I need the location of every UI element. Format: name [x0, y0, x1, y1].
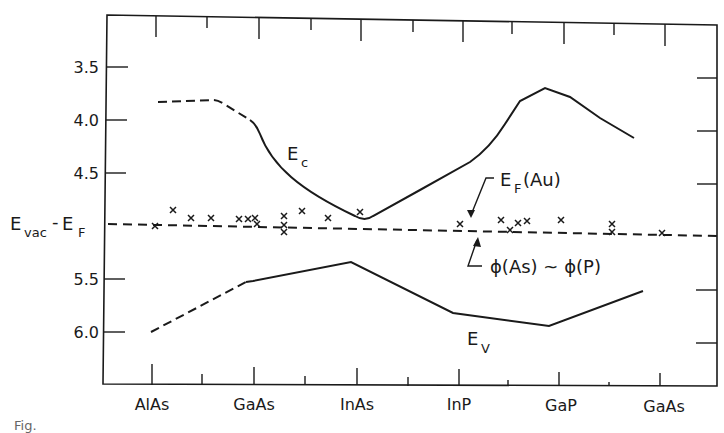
y-label-e: E [10, 213, 21, 234]
x-marker [299, 208, 305, 214]
x-label-gaas-2: GaAs [643, 397, 684, 416]
ec-label-sub: c [301, 155, 308, 170]
x-marker [357, 209, 363, 215]
x-marker [558, 217, 564, 223]
phi-arrowhead-icon [473, 237, 481, 247]
x-category-labels: AlAs GaAs InAs InP GaP GaAs [135, 395, 685, 416]
x-label-gap: GaP [545, 396, 577, 415]
x-marker [515, 220, 521, 226]
ef-arrow-icon [471, 178, 494, 215]
ev-label-sub: V [481, 341, 490, 356]
x-marker [507, 227, 513, 233]
x-marker [236, 216, 242, 222]
y-label-dash: - [52, 211, 59, 232]
ef-label-suffix: (Au) [523, 169, 561, 190]
x-label-inas: InAs [340, 395, 374, 414]
x-marker [245, 216, 251, 222]
y-label-e2: E [62, 213, 73, 234]
data-markers [152, 207, 665, 236]
x-marker [609, 229, 615, 235]
y-axis-label: E vac - E F [10, 211, 85, 240]
x-marker [208, 215, 214, 221]
ev-label-e: E [467, 328, 478, 349]
y-label-sub-f: F [78, 225, 85, 240]
x-marker [188, 215, 194, 221]
x-marker [457, 221, 463, 227]
y-tick-label: 4.0 [74, 111, 99, 130]
ec-label-e: E [287, 143, 298, 164]
x-marker [252, 215, 258, 221]
x-label-inp: InP [447, 395, 472, 414]
x-marker [281, 222, 287, 228]
y-tick-label: 6.0 [74, 323, 99, 342]
ec-label: E c [287, 143, 308, 170]
y-tick-label: 5.5 [74, 270, 99, 289]
x-marker [281, 213, 287, 219]
x-marker [498, 217, 504, 223]
ev-label: E V [467, 328, 490, 356]
y-axis-ticks-left [104, 67, 128, 332]
plot-frame [103, 15, 717, 386]
y-tick-label: 3.5 [74, 58, 99, 77]
x-marker [152, 223, 158, 229]
x-marker [170, 207, 176, 213]
figure-caption: Fig. [14, 418, 37, 433]
ef-label-sub: F [514, 181, 521, 196]
series-ec [158, 88, 634, 219]
x-label-gaas: GaAs [233, 395, 274, 414]
y-tick-labels: 3.5 4.0 4.5 5.5 6.0 [74, 58, 99, 342]
ef-au-annotation: E F (Au) [467, 169, 561, 218]
y-axis-ticks-right [696, 78, 717, 343]
x-marker [609, 221, 615, 227]
y-label-sub-vac: vac [24, 225, 47, 240]
x-axis-ticks-bottom [152, 364, 660, 386]
phi-label: ϕ(As) ~ ϕ(P) [490, 256, 601, 277]
y-tick-label: 4.5 [74, 164, 99, 183]
ef-label-e: E [500, 169, 511, 190]
x-marker [524, 218, 530, 224]
x-marker [281, 229, 287, 235]
x-label-alas: AlAs [135, 395, 170, 414]
series-pinning-line [108, 224, 717, 236]
ef-arrowhead-icon [467, 210, 475, 218]
x-marker [254, 221, 260, 227]
phi-annotation: ϕ(As) ~ ϕ(P) [468, 237, 601, 277]
x-marker [325, 215, 331, 221]
x-marker [659, 230, 665, 236]
